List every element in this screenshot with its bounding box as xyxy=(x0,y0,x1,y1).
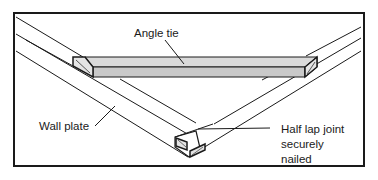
angle-tie-label: Angle tie xyxy=(134,27,179,39)
half-lap-label-line1: Half lap joint xyxy=(281,123,345,135)
half-lap-leader xyxy=(198,128,270,129)
angle-tie-board xyxy=(73,56,317,77)
wall-plate-label: Wall plate xyxy=(39,120,89,132)
half-lap-label-line3: nailed xyxy=(281,153,312,165)
wall-plate-leader xyxy=(95,106,115,126)
angle-tie-diagram: Angle tie Wall plate Half lap joint secu… xyxy=(0,0,378,180)
half-lap-label-line2: securely xyxy=(281,138,324,150)
